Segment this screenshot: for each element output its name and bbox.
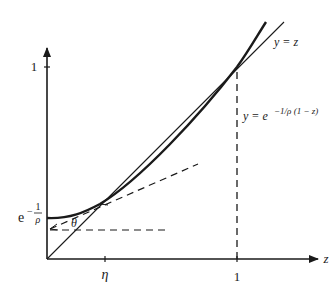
angle-label-theta: θ <box>71 216 77 230</box>
y-intercept-label: e − 1 ρ <box>18 201 42 225</box>
diagram-canvas: 1 η 1 z e − 1 ρ θ y = z y = e −1/ρ (1 − … <box>0 0 334 301</box>
exp-label-base: y = e <box>242 109 268 123</box>
x-tick-label-eta: η <box>102 267 109 282</box>
identity-line-label: y = z <box>273 35 298 49</box>
exp-label-exponent: −1/ρ (1 − z) <box>274 106 318 116</box>
intercept-minus: − <box>27 206 33 217</box>
intercept-frac-num: 1 <box>36 201 41 212</box>
y-tick-label-1: 1 <box>31 59 38 74</box>
x-tick-label-1: 1 <box>234 269 241 284</box>
exponential-curve <box>47 22 266 218</box>
intercept-frac-den: ρ <box>35 214 41 225</box>
intercept-base: e <box>18 210 24 225</box>
identity-line <box>47 22 284 259</box>
x-axis-label: z <box>322 251 328 266</box>
exponential-curve-label: y = e −1/ρ (1 − z) <box>242 106 318 123</box>
